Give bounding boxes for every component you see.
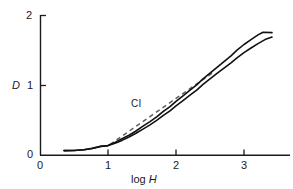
x-tick-label-2: 2: [173, 160, 179, 171]
x-axis-ticks: [108, 150, 244, 156]
x-axis-title: log H: [131, 174, 157, 185]
chart-figure: 2 1 0 D 0 1 2 3 log H CI: [0, 0, 293, 189]
characteristic-curve-lower: [64, 37, 272, 151]
y-axis-ticks: [41, 16, 47, 86]
ci-annotation-label: CI: [131, 99, 142, 109]
y-tick-label-1: 1: [27, 80, 33, 91]
x-tick-label-3: 3: [241, 160, 247, 171]
y-tick-label-0: 0: [27, 149, 33, 160]
chart-plot-area: [0, 0, 293, 189]
x-tick-label-0: 0: [37, 160, 43, 171]
characteristic-curve-upper: [64, 32, 272, 150]
x-tick-label-1: 1: [105, 160, 111, 171]
y-tick-label-2: 2: [26, 10, 32, 21]
y-axis-title: D: [12, 80, 20, 91]
